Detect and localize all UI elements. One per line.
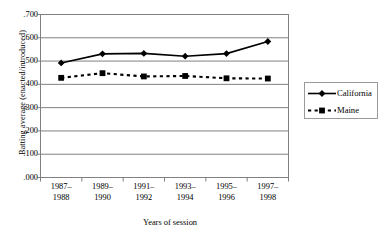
x-axis-tick-label-line: 1987– [39, 182, 83, 193]
x-axis-ticks [37, 15, 289, 182]
x-axis-tick-label-line: 1998 [246, 193, 290, 204]
chart-container: Batting average (enacted/introduced) .70… [0, 0, 384, 239]
x-axis-tick-label-line: 1990 [81, 193, 125, 204]
x-axis-tick-label: 1987–1988 [39, 182, 83, 203]
legend-key-icon [307, 102, 337, 119]
legend-item-maine[interactable]: Maine [305, 102, 379, 119]
x-axis-tick-label: 1989–1990 [81, 182, 125, 203]
x-axis-tick-label: 1995–1996 [205, 182, 249, 203]
series-line-california [61, 42, 268, 63]
x-axis-tick-label: 1997–1998 [246, 182, 290, 203]
x-axis-tick-label-line: 1991– [122, 182, 166, 193]
legend-key-icon [307, 85, 337, 102]
x-axis-tick-label-line: 1996 [205, 193, 249, 204]
data-point-california [140, 50, 147, 57]
data-point-maine [182, 73, 188, 79]
x-axis-tick-label-line: 1997– [246, 182, 290, 193]
x-axis-tick-label: 1993–1994 [163, 182, 207, 203]
x-axis-tick-labels: 1987–19881989–19901991–19921993–19941995… [40, 182, 290, 214]
data-point-maine [141, 74, 147, 80]
legend-label: California [337, 88, 372, 98]
data-point-california [223, 50, 230, 57]
legend-item-california[interactable]: California [305, 85, 379, 102]
x-axis-tick-label-line: 1992 [122, 193, 166, 204]
x-axis-tick-label-line: 1993– [163, 182, 207, 193]
data-point-maine [265, 76, 271, 82]
x-axis-tick-label-line: 1994 [163, 193, 207, 204]
x-axis-tick-label: 1991–1992 [122, 182, 166, 203]
legend-label: Maine [337, 105, 359, 115]
data-point-maine [100, 70, 106, 76]
series-line-maine [61, 73, 268, 78]
x-axis-tick-label-line: 1995– [205, 182, 249, 193]
data-point-maine [58, 75, 64, 81]
plot-border [41, 15, 289, 178]
chart-legend: CaliforniaMaine [304, 82, 378, 119]
data-series-layer [58, 38, 271, 81]
data-point-california [264, 38, 271, 45]
plot-frame [41, 15, 289, 178]
x-axis-title: Years of session [50, 218, 290, 227]
data-point-california [58, 60, 65, 67]
data-point-maine [224, 75, 230, 81]
x-axis-tick-label-line: 1989– [81, 182, 125, 193]
x-axis-tick-label-line: 1988 [39, 193, 83, 204]
data-point-california [99, 50, 106, 57]
data-point-california [182, 53, 189, 60]
